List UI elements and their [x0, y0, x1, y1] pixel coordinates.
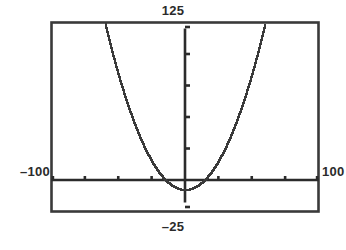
calculator-graph-screen: 125 –100 100 –25	[0, 0, 346, 250]
graph-plot-area	[0, 0, 346, 250]
